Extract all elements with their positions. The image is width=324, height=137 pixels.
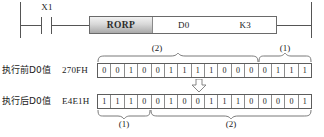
bit-cell-after-13: 0 <box>272 95 285 108</box>
row-hex-before: 270FH <box>62 64 88 76</box>
right-power-rail <box>311 2 312 38</box>
bit-cell-after-3: 0 <box>138 95 151 108</box>
bit-cell-before-5: 1 <box>165 64 178 77</box>
brace-bottom-label-1: (1) <box>104 119 144 130</box>
bit-cell-before-12: 0 <box>259 64 272 77</box>
bit-cell-before-9: 0 <box>218 64 231 77</box>
bit-cell-after-15: 1 <box>299 95 311 108</box>
bit-cell-before-1: 0 <box>111 64 124 77</box>
contact-label-x1: X1 <box>33 2 61 13</box>
bit-cell-before-11: 0 <box>245 64 258 77</box>
bit-cell-before-6: 1 <box>178 64 191 77</box>
instruction-operand-1: D0 <box>153 17 215 33</box>
rung-wire-segment <box>20 25 41 26</box>
brace-bottom-label-2: (2) <box>211 119 251 130</box>
instruction-opcode: RORP <box>90 17 153 33</box>
brace-top-label-1: (1) <box>265 43 305 54</box>
bit-cell-before-3: 0 <box>138 64 151 77</box>
bit-cell-before-13: 1 <box>272 64 285 77</box>
bit-cell-before-2: 1 <box>125 64 138 77</box>
instruction-operand-2: K3 <box>215 17 277 33</box>
bit-cell-before-4: 0 <box>152 64 165 77</box>
bit-cell-after-9: 1 <box>218 95 231 108</box>
bit-cell-after-14: 0 <box>285 95 298 108</box>
bit-cell-before-14: 1 <box>285 64 298 77</box>
ladder-rung: X1 RORP D0 K3 <box>0 0 324 42</box>
instruction-block: RORP D0 K3 <box>89 16 277 34</box>
bit-cell-after-7: 0 <box>192 95 205 108</box>
bit-cell-after-1: 1 <box>111 95 124 108</box>
rung-wire-segment <box>67 25 89 26</box>
bit-cell-after-5: 1 <box>165 95 178 108</box>
row-label-after: 执行后D0值 <box>2 95 51 107</box>
row-hex-after: E4E1H <box>62 95 90 107</box>
bit-cell-after-6: 0 <box>178 95 191 108</box>
brace-top-label-2: (2) <box>137 43 177 54</box>
bit-cell-after-11: 0 <box>245 95 258 108</box>
bit-cell-before-0: 0 <box>98 64 111 77</box>
bit-row-before: 0010011110000111 <box>97 63 312 78</box>
contact-icon <box>51 17 52 34</box>
bit-cell-after-10: 1 <box>232 95 245 108</box>
bit-cell-after-2: 1 <box>125 95 138 108</box>
bit-cell-before-10: 0 <box>232 64 245 77</box>
bit-cell-after-0: 1 <box>98 95 111 108</box>
rung-wire-segment <box>51 25 67 26</box>
bit-cell-after-4: 0 <box>152 95 165 108</box>
bit-cell-after-12: 0 <box>259 95 272 108</box>
bit-cell-before-8: 1 <box>205 64 218 77</box>
brace-top-group-2 <box>97 53 259 63</box>
down-arrow-icon <box>191 79 207 93</box>
contact-icon <box>41 17 42 34</box>
brace-top-group-1 <box>258 53 312 63</box>
bit-cell-before-7: 1 <box>192 64 205 77</box>
rung-wire-segment <box>277 25 311 26</box>
left-power-rail <box>20 2 21 38</box>
row-label-before: 执行前D0值 <box>2 64 51 76</box>
bit-cell-before-15: 1 <box>299 64 311 77</box>
diagram-root: X1 RORP D0 K3 (2) (1) 执行前D0值 270FH 00100… <box>0 0 324 137</box>
bit-row-after: 1110010011100001 <box>97 94 312 109</box>
bit-cell-after-8: 1 <box>205 95 218 108</box>
